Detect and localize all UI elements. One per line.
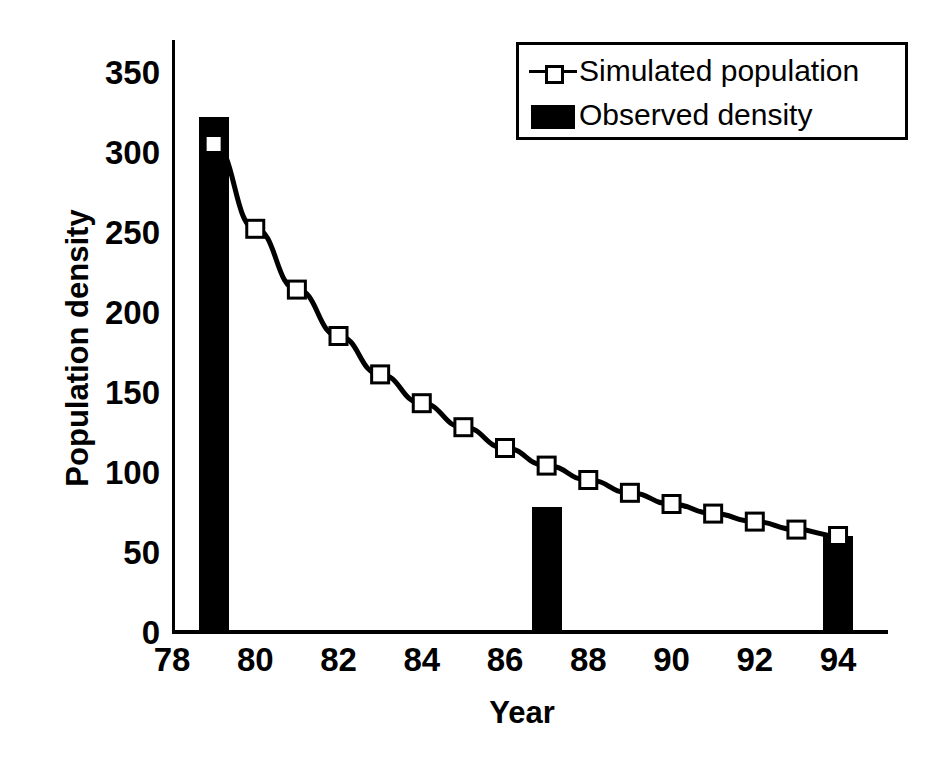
data-point-marker xyxy=(830,528,847,545)
population-density-chart: Population density Year 0501001502002503… xyxy=(0,0,939,761)
legend-item-observed-density: Observed density xyxy=(529,93,905,137)
data-point-marker xyxy=(788,521,805,538)
line-with-open-square-marker-icon xyxy=(529,57,577,85)
data-point-marker xyxy=(205,136,222,153)
x-tick-label: 88 xyxy=(570,643,607,676)
data-point-marker xyxy=(455,419,472,436)
data-point-marker xyxy=(372,366,389,383)
data-point-marker xyxy=(538,457,555,474)
data-point-marker xyxy=(413,395,430,412)
x-tick-label: 92 xyxy=(736,643,773,676)
x-tick-label: 84 xyxy=(403,643,440,676)
x-tick-label: 90 xyxy=(653,643,690,676)
x-tick-label: 86 xyxy=(487,643,524,676)
legend-label-simulated-population: Simulated population xyxy=(579,54,859,88)
data-point-marker xyxy=(330,328,347,345)
simulated-population-line xyxy=(214,144,838,536)
x-tick-label: 78 xyxy=(154,643,191,676)
data-point-marker xyxy=(746,513,763,530)
x-tick-label: 94 xyxy=(820,643,857,676)
x-tick-label: 82 xyxy=(320,643,357,676)
data-point-marker xyxy=(705,505,722,522)
data-point-marker xyxy=(580,472,597,489)
legend-item-simulated-population: Simulated population xyxy=(529,49,905,93)
filled-black-bar-icon xyxy=(529,101,577,129)
data-point-marker xyxy=(497,440,514,457)
data-point-marker xyxy=(288,281,305,298)
chart-legend: Simulated population Observed density xyxy=(516,42,908,140)
data-point-marker xyxy=(247,220,264,237)
data-point-marker xyxy=(663,496,680,513)
x-tick-label: 80 xyxy=(237,643,274,676)
data-point-marker xyxy=(621,484,638,501)
legend-label-observed-density: Observed density xyxy=(579,98,812,132)
